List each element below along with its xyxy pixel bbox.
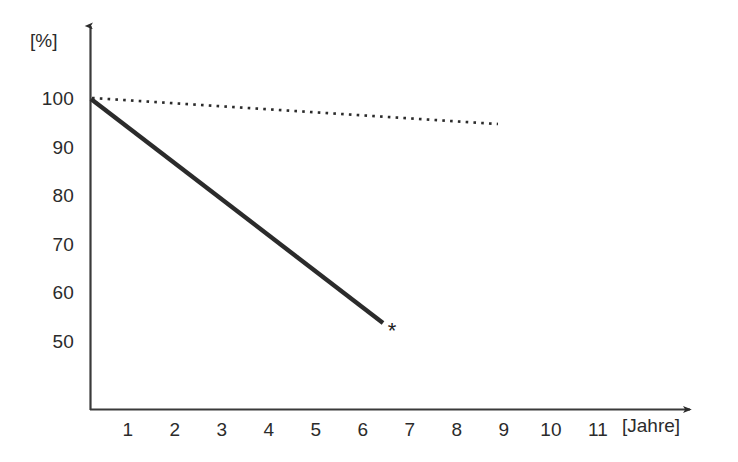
chart-figure: [%] [Jahre] 100 90 80 70 60 50 1 2 3 4 5… bbox=[0, 0, 738, 462]
y-tick-label-80: 80 bbox=[8, 185, 74, 207]
series-gentle-decline bbox=[92, 98, 498, 124]
y-tick-label-70: 70 bbox=[8, 234, 74, 256]
y-tick-label-90: 90 bbox=[8, 137, 74, 159]
asterisk-annotation: * bbox=[388, 320, 397, 342]
x-tick-label-6: 6 bbox=[358, 419, 369, 441]
x-axis-unit-label: [Jahre] bbox=[622, 415, 680, 437]
x-tick-label-9: 9 bbox=[499, 419, 510, 441]
y-axis-unit-label: [%] bbox=[30, 30, 57, 52]
x-tick-label-2: 2 bbox=[170, 419, 181, 441]
x-tick-label-7: 7 bbox=[405, 419, 416, 441]
x-tick-label-1: 1 bbox=[123, 419, 134, 441]
plot-area bbox=[0, 0, 738, 462]
x-tick-label-10: 10 bbox=[540, 419, 562, 441]
x-tick-label-8: 8 bbox=[452, 419, 463, 441]
x-tick-label-11: 11 bbox=[588, 419, 608, 441]
x-tick-label-3: 3 bbox=[217, 419, 228, 441]
x-tick-label-4: 4 bbox=[264, 419, 275, 441]
x-tick-label-5: 5 bbox=[311, 419, 322, 441]
y-tick-label-60: 60 bbox=[8, 282, 74, 304]
y-tick-label-100: 100 bbox=[8, 88, 74, 110]
y-tick-label-50: 50 bbox=[8, 331, 74, 353]
series-steep-decline bbox=[91, 99, 383, 323]
